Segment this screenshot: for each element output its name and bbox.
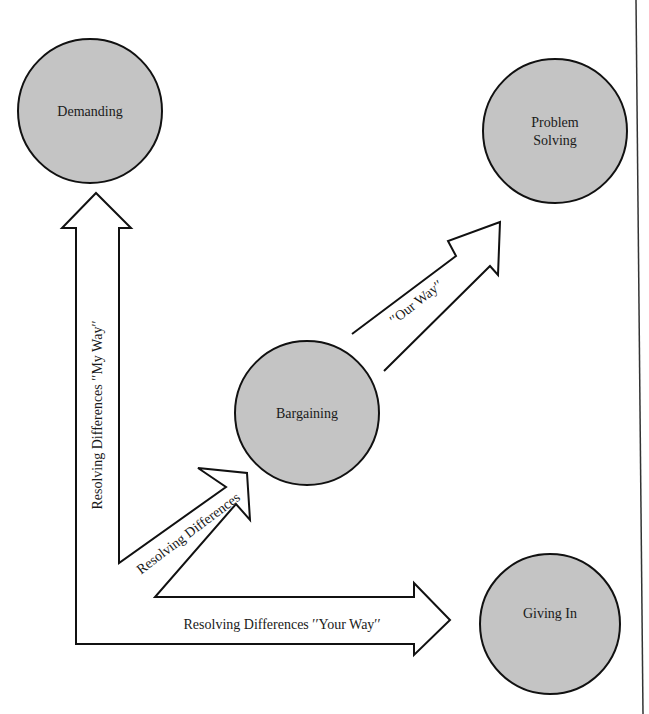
node-giving-in: Giving In [480, 554, 620, 694]
node-problem-solving-label-line1: Problem [531, 115, 579, 130]
arrow-label-your-way: Resolving Differences ′′Your Way′′ [184, 617, 381, 632]
node-problem-solving: Problem Solving [483, 59, 627, 203]
node-bargaining: Bargaining [235, 341, 379, 485]
node-problem-solving-label-line2: Solving [533, 133, 577, 148]
arrow-label-my-way: Resolving Differences ′′My Way′′ [90, 320, 105, 509]
node-bargaining-label: Bargaining [276, 406, 338, 421]
node-demanding: Demanding [18, 39, 162, 183]
node-giving-in-label: Giving In [523, 606, 577, 621]
page-border-line [636, 0, 643, 714]
arrow-label-resolving-differences: Resolving Differences [134, 490, 243, 577]
conflict-resolution-diagram: Demanding Problem Solving Bargaining Giv… [0, 0, 649, 714]
node-demanding-label: Demanding [57, 104, 122, 119]
